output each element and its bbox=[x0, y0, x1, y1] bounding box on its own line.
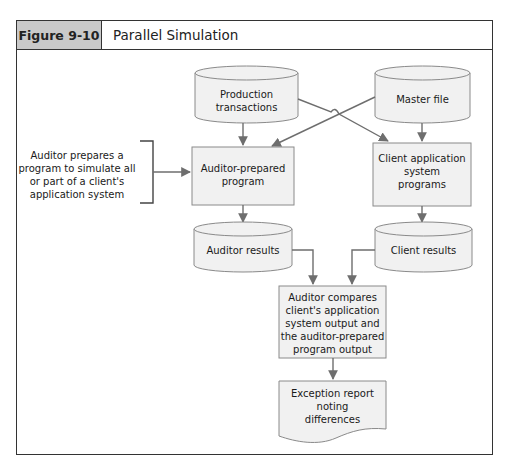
node-text: Auditor-prepared bbox=[201, 163, 286, 174]
client-application-programs-box: Client application system programs bbox=[373, 143, 471, 206]
flowchart: Production transactions Master file Audi… bbox=[0, 0, 510, 472]
node-text: Exception report bbox=[291, 388, 374, 399]
node-text: client's application bbox=[286, 305, 380, 316]
production-transactions-cylinder: Production transactions bbox=[195, 66, 298, 123]
node-text: system bbox=[404, 166, 440, 177]
node-text: program bbox=[222, 176, 265, 187]
annotation-text: application system bbox=[30, 189, 125, 200]
auditor-annotation: Auditor prepares a program to simulate a… bbox=[19, 141, 154, 203]
node-text: Production bbox=[220, 89, 273, 100]
node-text: program output bbox=[293, 344, 372, 355]
client-results-cylinder: Client results bbox=[375, 222, 472, 272]
edge-auditor-results-to-compare bbox=[292, 250, 313, 284]
node-text: transactions bbox=[216, 102, 278, 113]
node-text: Auditor compares bbox=[288, 292, 377, 303]
node-text: noting bbox=[317, 401, 349, 412]
auditor-results-cylinder: Auditor results bbox=[194, 222, 292, 272]
node-text: differences bbox=[305, 414, 360, 425]
annotation-bracket bbox=[140, 141, 153, 203]
annotation-text: or part of a client's bbox=[30, 176, 125, 187]
figure-canvas: Figure 9-10 Parallel Simulation Producti… bbox=[0, 0, 510, 472]
auditor-prepared-program-box: Auditor-prepared program bbox=[192, 147, 294, 205]
annotation-text: program to simulate all bbox=[19, 163, 136, 174]
node-text: system output and bbox=[285, 318, 379, 329]
auditor-compares-box: Auditor compares client's application sy… bbox=[279, 286, 386, 358]
node-text: Client application bbox=[378, 153, 465, 164]
node-text: the auditor-prepared bbox=[281, 331, 385, 342]
node-text: programs bbox=[398, 179, 446, 190]
master-file-cylinder: Master file bbox=[375, 66, 470, 123]
annotation-text: Auditor prepares a bbox=[30, 150, 123, 161]
exception-report-document: Exception report noting differences bbox=[279, 381, 386, 442]
edge-client-results-to-compare bbox=[352, 250, 375, 284]
node-text: Client results bbox=[391, 245, 457, 256]
node-text: Master file bbox=[396, 94, 449, 105]
node-text: Auditor results bbox=[206, 245, 279, 256]
